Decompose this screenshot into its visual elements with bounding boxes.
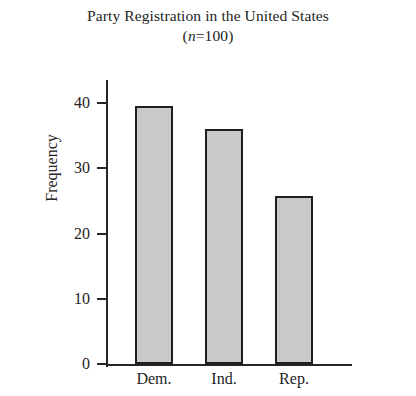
y-axis-tick-label: 20 xyxy=(30,226,90,242)
x-axis-line xyxy=(106,364,352,366)
bar-rep xyxy=(275,196,313,364)
y-axis-tick xyxy=(97,363,107,365)
x-axis-label: Dem. xyxy=(114,370,194,388)
y-axis-tick xyxy=(97,233,107,235)
y-axis-tick xyxy=(97,167,107,169)
x-axis-label: Ind. xyxy=(184,370,264,388)
y-axis-tick-label: 40 xyxy=(30,95,90,111)
y-axis-tick-label: 30 xyxy=(30,160,90,176)
x-axis-label: Rep. xyxy=(254,370,334,388)
y-axis-tick xyxy=(97,102,107,104)
plot-area: Frequency 010203040 Dem.Ind.Rep. xyxy=(0,0,416,396)
y-axis-line xyxy=(106,80,108,367)
bar-dem xyxy=(135,106,173,364)
bar-ind xyxy=(205,129,243,364)
y-axis-tick-label: 10 xyxy=(30,291,90,307)
y-axis-tick xyxy=(97,298,107,300)
y-axis-tick-label: 0 xyxy=(30,356,90,372)
